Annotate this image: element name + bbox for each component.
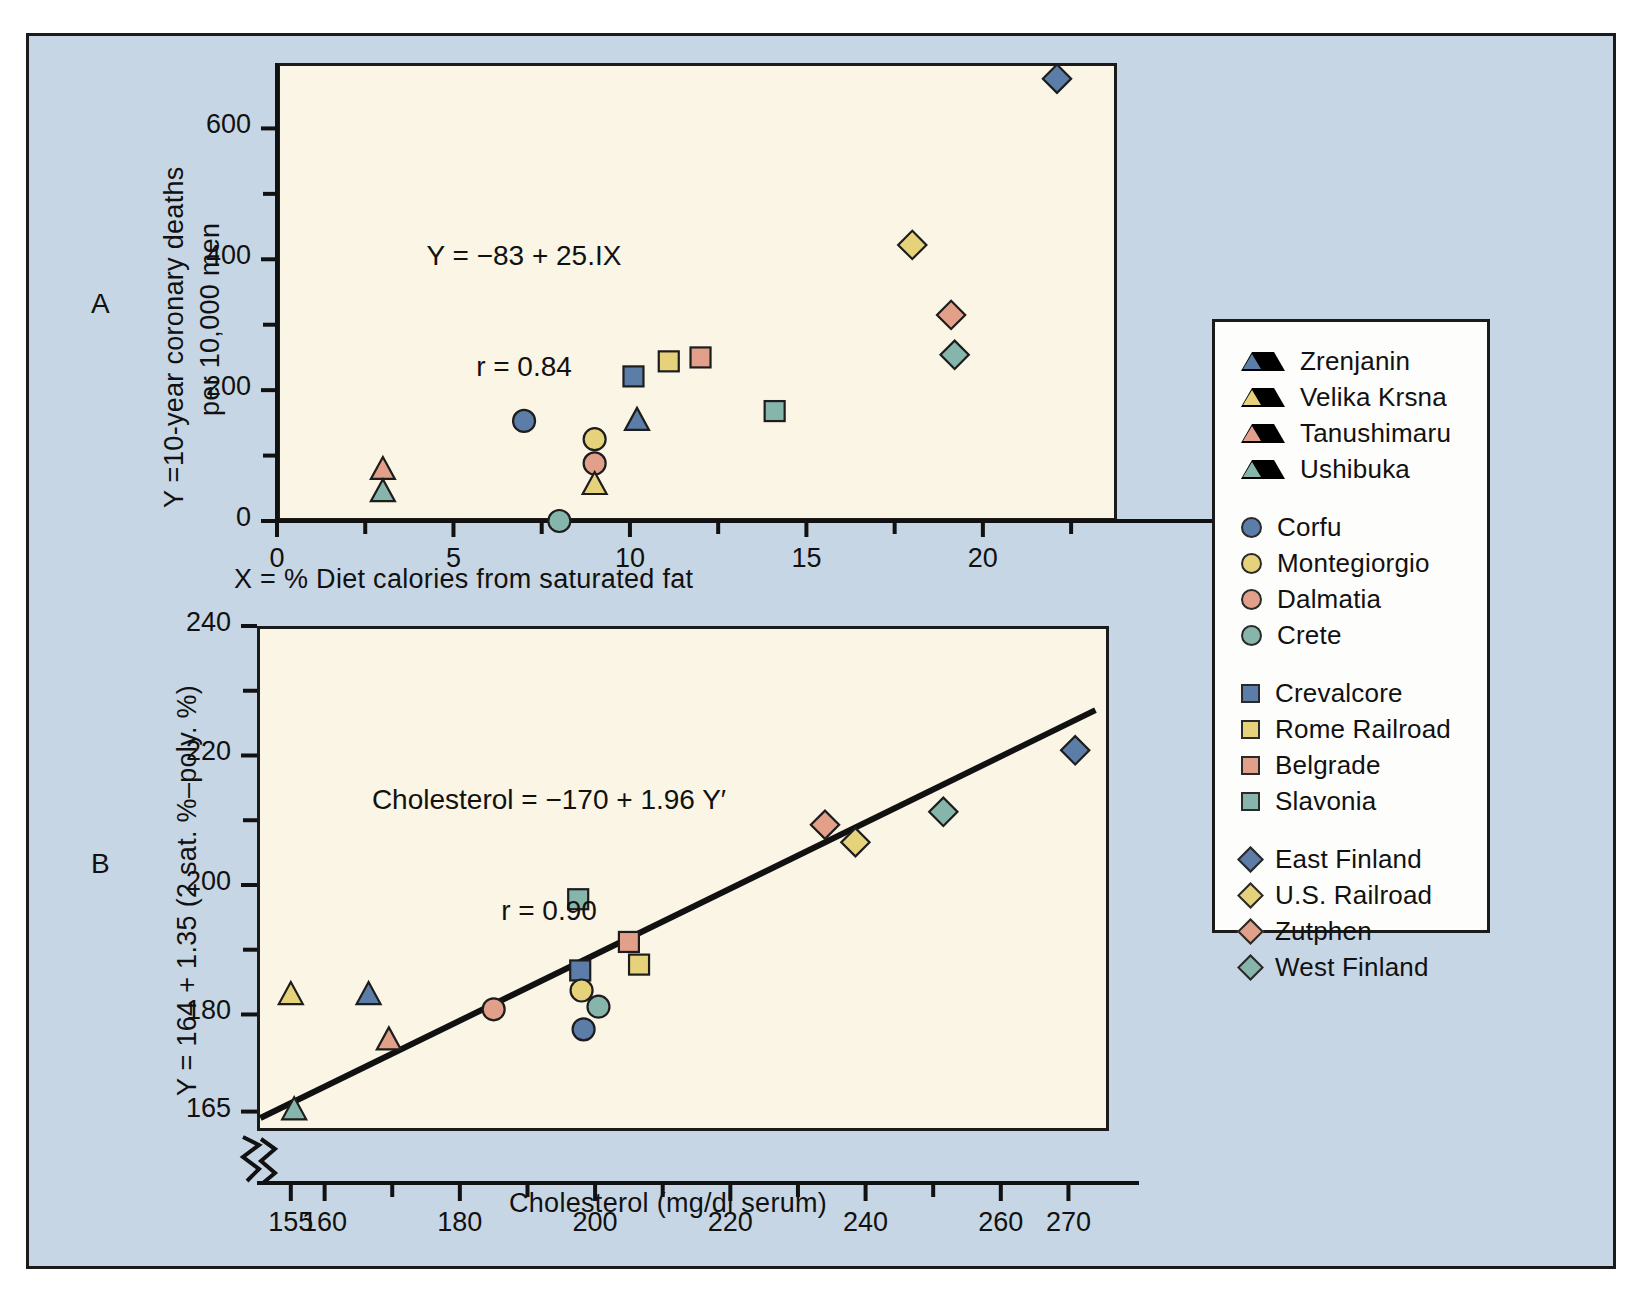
legend-label: U.S. Railroad [1275, 880, 1432, 911]
tick-label: 165 [186, 1093, 231, 1124]
diamond-marker-icon [1237, 918, 1264, 945]
legend-label: Crevalcore [1275, 678, 1403, 709]
tick-label: 200 [573, 1207, 618, 1238]
square-marker-icon [1241, 756, 1260, 775]
tick-label: 260 [978, 1207, 1023, 1238]
panel-a-label: A [91, 288, 110, 320]
legend-item-belgrade[interactable]: Belgrade [1241, 748, 1381, 782]
diamond-marker-icon [1237, 882, 1264, 909]
diamond-marker-icon [1237, 846, 1264, 873]
legend-item-zrenjanin[interactable]: Zrenjanin [1241, 344, 1410, 378]
axis-break-icon-2 [261, 1139, 275, 1183]
panel-b-equation: Cholesterol = −170 + 1.96 Y′ [339, 782, 759, 819]
triangle-marker-icon [1241, 388, 1285, 407]
panel-b-label: B [91, 848, 110, 880]
triangle-marker-icon [1241, 352, 1285, 371]
panel-b-correlation: r = 0.90 [339, 893, 759, 930]
tick-label: 220 [186, 736, 231, 767]
circle-marker-icon [1241, 625, 1262, 646]
tick-label: 200 [186, 866, 231, 897]
tick-label: 0 [269, 543, 284, 574]
legend-item-u-s-railroad[interactable]: U.S. Railroad [1241, 878, 1432, 912]
legend-item-dalmatia[interactable]: Dalmatia [1241, 582, 1381, 616]
panel-a-correlation: r = 0.84 [374, 349, 674, 386]
legend-label: West Finland [1275, 952, 1429, 983]
figure-frame: A Y = −83 + 25.IX r = 0.84 X = % Diet ca… [26, 33, 1616, 1269]
legend-item-corfu[interactable]: Corfu [1241, 510, 1342, 544]
circle-marker-icon [1241, 589, 1262, 610]
triangle-marker-icon [1241, 424, 1285, 443]
tick-label: 5 [446, 543, 461, 574]
legend-label: Corfu [1277, 512, 1342, 543]
legend-label: Zutphen [1275, 916, 1372, 947]
panel-a-ylabel-line1: 10-year coronary deaths [159, 166, 190, 466]
legend-label: Dalmatia [1277, 584, 1381, 615]
legend-item-zutphen[interactable]: Zutphen [1241, 914, 1372, 948]
legend-label: Ushibuka [1300, 454, 1410, 485]
tick-label: 240 [186, 607, 231, 638]
square-marker-icon [1241, 792, 1260, 811]
legend-label: Slavonia [1275, 786, 1376, 817]
panel-a-annotation: Y = −83 + 25.IX r = 0.84 [374, 164, 674, 460]
tick-label: 240 [843, 1207, 888, 1238]
legend-item-crete[interactable]: Crete [1241, 618, 1342, 652]
triangle-marker-icon [1241, 460, 1285, 479]
legend-label: Crete [1277, 620, 1342, 651]
legend-item-slavonia[interactable]: Slavonia [1241, 784, 1376, 818]
tick-label: 200 [206, 371, 251, 402]
legend-item-tanushimaru[interactable]: Tanushimaru [1241, 416, 1451, 450]
panel-a-equation: Y = −83 + 25.IX [374, 238, 674, 275]
legend-label: Velika Krsna [1300, 382, 1447, 413]
legend-label: Montegiorgio [1277, 548, 1430, 579]
tick-label: 10 [615, 543, 645, 574]
tick-label: 15 [791, 543, 821, 574]
tick-label: 400 [206, 240, 251, 271]
tick-label: 0 [236, 502, 251, 533]
panel-a-ylabel-prefix: Y = [159, 466, 190, 508]
tick-label: 220 [708, 1207, 753, 1238]
legend-label: Rome Railroad [1275, 714, 1451, 745]
legend-label: Belgrade [1275, 750, 1381, 781]
tick-label: 600 [206, 109, 251, 140]
panel-b-annotation: Cholesterol = −170 + 1.96 Y′ r = 0.90 [339, 708, 759, 1004]
tick-label: 270 [1046, 1207, 1091, 1238]
legend-item-crevalcore[interactable]: Crevalcore [1241, 676, 1403, 710]
axis-break-icon [243, 1137, 259, 1181]
legend-box: ZrenjaninVelika KrsnaTanushimaruUshibuka… [1212, 319, 1490, 933]
legend-label: Zrenjanin [1300, 346, 1410, 377]
tick-label: 180 [186, 995, 231, 1026]
legend-item-montegiorgio[interactable]: Montegiorgio [1241, 546, 1430, 580]
tick-label: 160 [302, 1207, 347, 1238]
legend-item-rome-railroad[interactable]: Rome Railroad [1241, 712, 1451, 746]
square-marker-icon [1241, 684, 1260, 703]
diamond-marker-icon [1237, 954, 1264, 981]
legend-item-east-finland[interactable]: East Finland [1241, 842, 1422, 876]
circle-marker-icon [1241, 517, 1262, 538]
square-marker-icon [1241, 720, 1260, 739]
tick-label: 180 [437, 1207, 482, 1238]
legend-label: East Finland [1275, 844, 1422, 875]
panel-b-xlabel: Cholesterol (mg/dl serum) [509, 1188, 827, 1219]
circle-marker-icon [1241, 553, 1262, 574]
legend-item-velika-krsna[interactable]: Velika Krsna [1241, 380, 1447, 414]
legend-item-ushibuka[interactable]: Ushibuka [1241, 452, 1410, 486]
tick-label: 20 [968, 543, 998, 574]
legend-label: Tanushimaru [1300, 418, 1451, 449]
legend-item-west-finland[interactable]: West Finland [1241, 950, 1429, 984]
